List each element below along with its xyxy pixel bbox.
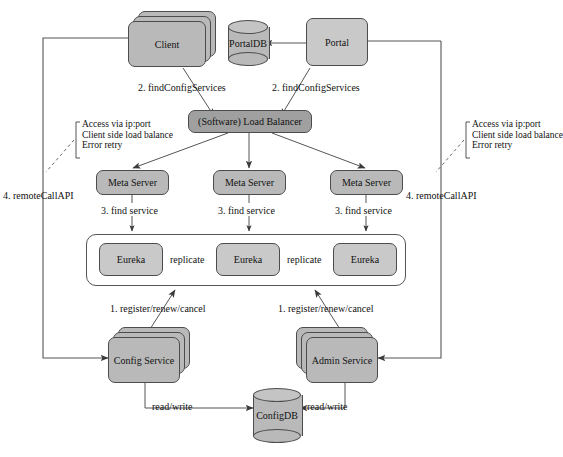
- annotation-right-note: Access via ip:port Client side load bala…: [472, 119, 563, 151]
- label-register-left: 1. register/renew/cancel: [110, 303, 206, 314]
- node-configdb[interactable]: ConfigDB: [253, 388, 301, 443]
- annotation-right-line-3: Error retry: [472, 140, 563, 151]
- node-meta-server-1[interactable]: Meta Server: [96, 170, 169, 195]
- annotation-right-line-1: Access via ip:port: [472, 119, 563, 130]
- label-find-service-1: 3. find service: [101, 205, 158, 216]
- label-find-config-services-right: 2. findConfigServices: [272, 82, 360, 93]
- node-client-label: Client: [155, 39, 179, 50]
- node-eureka-3-label: Eureka: [351, 254, 379, 265]
- node-portal[interactable]: Portal: [306, 18, 368, 66]
- outer-routing-lines: [43, 38, 441, 358]
- annotation-left-line-2: Client side load balance: [82, 130, 173, 141]
- label-find-service-3: 3. find service: [335, 205, 392, 216]
- node-load-balancer-label: (Software) Load Balancer: [198, 116, 302, 127]
- node-portaldb-label: PortalDB: [229, 38, 267, 49]
- node-eureka-1-label: Eureka: [117, 254, 145, 265]
- node-meta-server-2-label: Meta Server: [225, 177, 274, 188]
- node-admin-service-label: Admin Service: [312, 355, 372, 366]
- annotation-left-line-1: Access via ip:port: [82, 119, 173, 130]
- annotation-right-line-2: Client side load balance: [472, 130, 563, 141]
- label-replicate-left: replicate: [170, 254, 204, 265]
- node-portaldb[interactable]: PortalDB: [228, 20, 268, 66]
- node-meta-server-3[interactable]: Meta Server: [330, 170, 403, 195]
- node-eureka-2-label: Eureka: [234, 254, 262, 265]
- label-find-service-2: 3. find service: [218, 205, 275, 216]
- node-meta-server-1-label: Meta Server: [108, 177, 157, 188]
- node-meta-server-3-label: Meta Server: [342, 177, 391, 188]
- label-remote-call-api-right: 4. remoteCallAPI: [406, 190, 477, 201]
- label-remote-call-api-left: 4. remoteCallAPI: [3, 190, 74, 201]
- annotation-left-line-3: Error retry: [82, 140, 173, 151]
- node-configdb-label: ConfigDB: [256, 410, 298, 421]
- node-eureka-3[interactable]: Eureka: [333, 243, 397, 276]
- node-config-service-label: Config Service: [114, 355, 174, 366]
- label-read-write-right: read/write: [307, 401, 348, 412]
- node-load-balancer[interactable]: (Software) Load Balancer: [188, 110, 312, 133]
- label-read-write-left: read/write: [152, 401, 193, 412]
- label-find-config-services-left: 2. findConfigServices: [138, 82, 226, 93]
- node-portal-label: Portal: [325, 37, 349, 48]
- node-eureka-1[interactable]: Eureka: [99, 243, 163, 276]
- node-eureka-2[interactable]: Eureka: [216, 243, 280, 276]
- node-admin-service[interactable]: Admin Service: [306, 337, 378, 383]
- node-client[interactable]: Client: [128, 21, 206, 67]
- label-replicate-right: replicate: [287, 254, 321, 265]
- node-config-service[interactable]: Config Service: [108, 337, 180, 383]
- node-meta-server-2[interactable]: Meta Server: [213, 170, 286, 195]
- annotation-left-note: Access via ip:port Client side load bala…: [82, 119, 173, 151]
- label-register-right: 1. register/renew/cancel: [278, 303, 374, 314]
